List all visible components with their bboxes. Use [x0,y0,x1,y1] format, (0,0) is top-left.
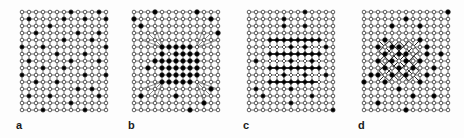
panel-d-lattice [360,8,462,120]
panel-a-lattice [18,8,112,120]
panel-a [18,8,112,120]
panel-c-label: c [243,120,249,131]
panel-b-label: b [128,120,135,131]
panel-c-lattice [245,8,345,120]
panel-d [360,8,462,120]
panel-b [130,8,230,120]
panel-c [245,8,345,120]
figure-root: abcd [0,0,464,138]
panel-a-label: a [16,120,22,131]
panel-b-lattice [130,8,230,120]
panel-d-label: d [358,120,365,131]
